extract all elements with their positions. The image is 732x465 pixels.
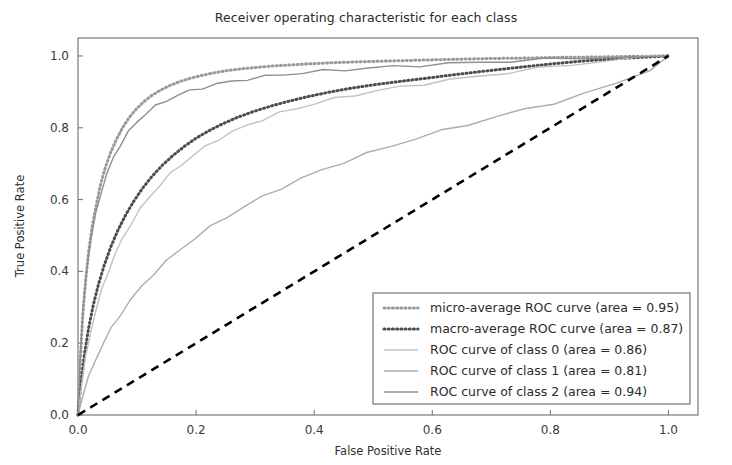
x-tick-label: 0.8 [541,423,560,437]
plot-canvas: 0.00.20.40.60.81.0 0.00.20.40.60.81.0 Fa… [0,0,732,465]
y-tick-label: 0.8 [50,121,69,135]
x-axis-title: False Positive Rate [335,444,442,458]
y-tick-label: 0.0 [50,408,69,422]
y-tick-label: 0.2 [50,336,69,350]
x-tick-label: 1.0 [659,423,678,437]
legend-label-2: ROC curve of class 0 (area = 0.86) [430,342,647,357]
legend: micro-average ROC curve (area = 0.95)mac… [373,293,690,404]
y-tick-label: 1.0 [50,49,69,63]
x-axis-ticks: 0.00.20.40.60.81.0 [68,410,678,437]
x-tick-label: 0.4 [305,423,324,437]
y-tick-label: 0.6 [50,193,69,207]
legend-label-0: micro-average ROC curve (area = 0.95) [430,300,679,315]
x-tick-label: 0.6 [423,423,442,437]
legend-label-4: ROC curve of class 2 (area = 0.94) [430,384,647,399]
roc-chart-figure: Receiver operating characteristic for ea… [0,0,732,465]
legend-label-1: macro-average ROC curve (area = 0.87) [430,321,683,336]
y-tick-label: 0.4 [50,264,69,278]
x-tick-label: 0.0 [68,423,87,437]
legend-label-3: ROC curve of class 1 (area = 0.81) [430,363,647,378]
y-axis-title: True Positive Rate [13,175,27,278]
x-tick-label: 0.2 [187,423,206,437]
